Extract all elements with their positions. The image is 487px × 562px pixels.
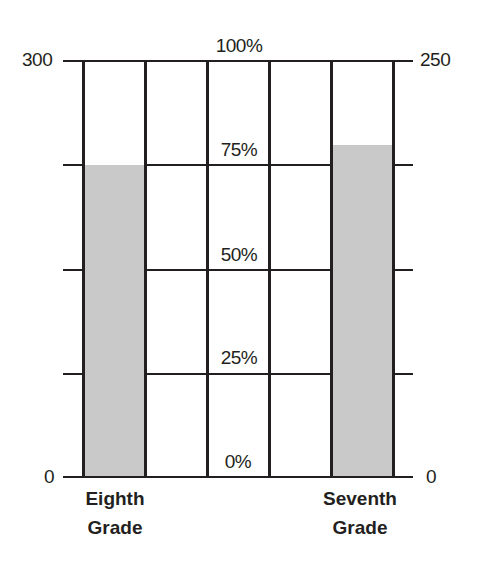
- column-line-1: [82, 61, 85, 477]
- left-axis-min-label: 0: [44, 467, 54, 487]
- right-axis-min-label: 0: [426, 467, 436, 487]
- bar-seventh-grade: [332, 145, 394, 477]
- right-axis-max-label: 250: [420, 50, 450, 70]
- category-label-eighth-grade: Eighth Grade: [60, 484, 170, 542]
- gridline-25-middle: [146, 373, 332, 375]
- percent-label-50: 50%: [199, 245, 279, 265]
- percent-label-25: 25%: [199, 348, 279, 368]
- percent-label-75: 75%: [199, 140, 279, 160]
- column-line-5: [330, 61, 333, 477]
- gridline-50-left-tick: [63, 269, 83, 271]
- column-line-6: [392, 61, 395, 477]
- left-axis-max-label: 300: [22, 50, 52, 70]
- gridline-75-right-tick: [394, 164, 413, 166]
- gridline-100: [63, 60, 413, 62]
- category-label-seventh-line1: Seventh: [305, 484, 415, 513]
- baseline-0: [63, 476, 413, 478]
- gridline-75-middle: [146, 164, 332, 166]
- percent-label-0: 0%: [198, 452, 278, 472]
- column-line-4: [268, 61, 271, 477]
- category-label-seventh-grade: Seventh Grade: [305, 484, 415, 542]
- bar-eighth-grade: [84, 165, 146, 477]
- gridline-25-right-tick: [394, 373, 413, 375]
- column-line-2: [144, 61, 147, 477]
- percent-label-100: 100%: [199, 36, 279, 56]
- gridline-25-left-tick: [63, 373, 83, 375]
- category-label-eighth-line2: Grade: [60, 513, 170, 542]
- gridline-75-left-tick: [63, 164, 83, 166]
- column-line-3: [206, 61, 209, 477]
- gridline-50-right-tick: [394, 269, 413, 271]
- category-label-eighth-line1: Eighth: [60, 484, 170, 513]
- gridline-50-middle: [146, 269, 332, 271]
- category-label-seventh-line2: Grade: [305, 513, 415, 542]
